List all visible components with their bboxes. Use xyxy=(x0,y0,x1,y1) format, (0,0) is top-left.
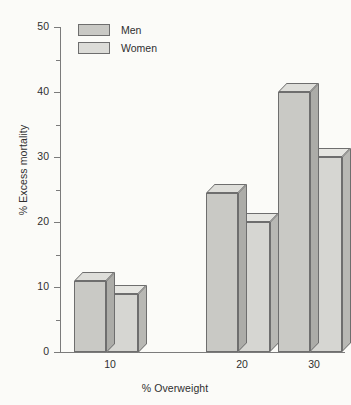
y-tick-minor xyxy=(56,190,60,191)
legend-swatch-women-icon xyxy=(78,42,110,54)
bar-front-face xyxy=(278,92,310,352)
y-tick-major xyxy=(54,352,60,353)
bar-side-face xyxy=(106,271,115,352)
legend-label-women: Women xyxy=(121,42,157,54)
y-tick-major xyxy=(54,157,60,158)
y-tick-label: 50 xyxy=(9,21,49,32)
y-tick-label: 10 xyxy=(9,281,49,292)
bar-side-face xyxy=(342,148,351,352)
y-tick-major xyxy=(54,92,60,93)
y-tick-major xyxy=(54,287,60,288)
legend-item-women: Women xyxy=(78,39,157,57)
y-tick-minor xyxy=(56,60,60,61)
bar-men-20 xyxy=(206,193,238,352)
y-tick-label: 20 xyxy=(9,216,49,227)
legend-swatch-men-icon xyxy=(78,24,110,36)
y-axis-line xyxy=(60,27,61,353)
x-tick-label: 10 xyxy=(80,358,140,370)
y-tick-minor xyxy=(56,255,60,256)
bar-side-face xyxy=(138,284,147,352)
chart-legend: Men Women xyxy=(78,21,157,57)
x-tick-label: 20 xyxy=(212,358,272,370)
y-tick-major xyxy=(54,27,60,28)
bar-men-10 xyxy=(74,281,106,353)
bar-side-face xyxy=(238,183,247,352)
bar-men-30 xyxy=(278,92,310,352)
y-tick-minor xyxy=(56,320,60,321)
x-tick-label: 30 xyxy=(284,358,344,370)
y-tick-label: 0 xyxy=(9,346,49,357)
x-axis-title: % Overweight xyxy=(0,382,350,394)
legend-item-men: Men xyxy=(78,21,157,39)
bar-side-face xyxy=(310,83,319,352)
y-tick-major xyxy=(54,222,60,223)
bar-front-face xyxy=(74,281,106,353)
x-axis-line xyxy=(60,352,345,353)
y-tick-minor xyxy=(56,125,60,126)
y-tick-label: 30 xyxy=(9,151,49,162)
legend-label-men: Men xyxy=(121,24,141,36)
y-tick-label: 40 xyxy=(9,86,49,97)
bar-front-face xyxy=(206,193,238,352)
